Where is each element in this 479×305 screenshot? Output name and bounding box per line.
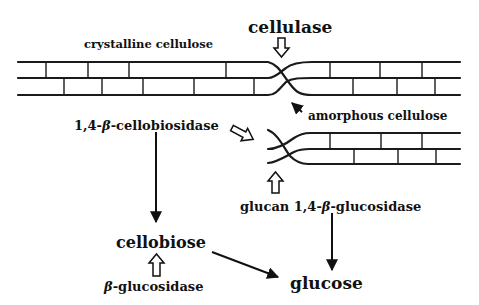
cellobiose-to-glucose-arrow-icon [212,252,278,277]
amorphous-cellulose-fiber [268,130,460,164]
cellobiosidase-label: 1,4-β-cellobiosidase [74,118,219,133]
beta-glucosidase-action-arrow-icon [149,254,164,276]
glucose-label: glucose [290,273,363,293]
amorphous-cellulose-label: amorphous cellulose [308,109,448,123]
cellobiosidase-action-arrow-icon [229,122,257,146]
amorphous-pointer-arrow-icon [292,103,302,112]
beta-glucosidase-label: β-glucosidase [103,279,203,294]
cellulase-label: cellulase [248,17,332,37]
glucan-glucosidase-label: glucan 1,4-β-glucosidase [240,199,421,214]
crystalline-cellulose-label: crystalline cellulose [84,37,213,51]
cellulase-action-arrow-icon [274,38,289,57]
cellulose-hydrolysis-diagram: cellulase crystalline cellulose amorphou… [0,0,479,305]
glucan-glucosidase-action-arrow-icon [268,172,283,193]
crystalline-cellulose-fiber [18,62,460,95]
cellobiose-label: cellobiose [116,233,206,252]
